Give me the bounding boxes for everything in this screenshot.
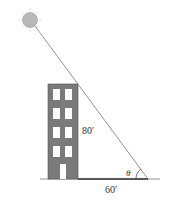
sun-icon <box>18 8 42 32</box>
building <box>48 84 78 179</box>
shadow-label: 60′ <box>105 184 117 195</box>
angle-label: θ <box>126 168 130 178</box>
diagram-canvas <box>0 0 172 203</box>
height-label: 80′ <box>82 125 94 136</box>
angle-arc <box>136 169 141 179</box>
